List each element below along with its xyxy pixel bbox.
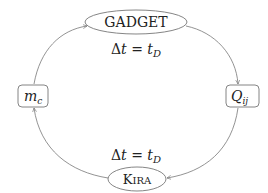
edge-gadget-to-qij bbox=[186, 26, 238, 84]
node-gadget-label: GADGET bbox=[104, 14, 168, 30]
node-qij: Qij bbox=[226, 85, 259, 107]
edge-kira-to-mc bbox=[34, 108, 108, 178]
edge-qij-to-kira bbox=[167, 108, 238, 178]
node-kira: KIRA bbox=[108, 167, 166, 191]
node-mc: mc bbox=[18, 85, 48, 107]
edge-mc-to-gadget bbox=[34, 26, 87, 84]
node-gadget: GADGET bbox=[85, 10, 187, 34]
top-annotation: Δt = tD bbox=[111, 41, 161, 59]
cycle-diagram: GADGET Δt = tD mc Qij Δt = tD KIRA bbox=[0, 0, 268, 193]
bottom-annotation: Δt = tD bbox=[111, 147, 161, 165]
node-kira-label: KIRA bbox=[123, 172, 152, 187]
